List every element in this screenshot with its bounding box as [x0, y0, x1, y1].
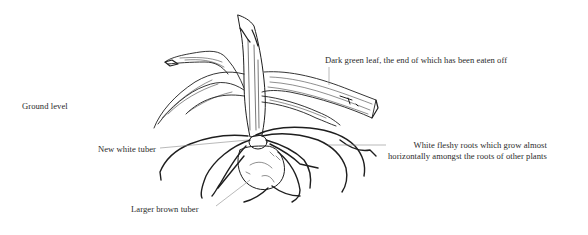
central-sheath — [238, 15, 265, 137]
ground-level-label: Ground level — [22, 101, 68, 112]
eaten-leaf — [262, 72, 378, 118]
leaf-label: Dark green leaf, the end of which has be… — [325, 55, 507, 66]
roots-label: White fleshy roots which grow almost hor… — [388, 140, 547, 162]
larger-tuber-label: Larger brown tuber — [131, 204, 199, 215]
upper-left-leaf — [165, 51, 244, 88]
lower-left-leaf — [154, 72, 244, 128]
new-tuber-label: New white tuber — [98, 144, 156, 155]
roots-label-line-2: horizontally amongst the roots of other … — [388, 151, 547, 162]
roots-label-line-1: White fleshy roots which grow almost — [388, 140, 547, 151]
plant-illustration — [0, 0, 588, 235]
